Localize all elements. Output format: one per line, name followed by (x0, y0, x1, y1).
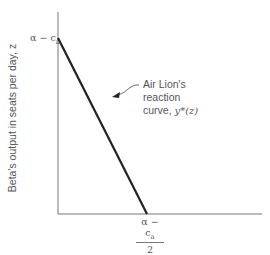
y-tick-label: α − ca (30, 32, 60, 46)
arrow-head-icon (112, 92, 120, 98)
y-axis-label: Beta's output in seats per day, z (6, 44, 18, 192)
reaction-curve-line (58, 38, 147, 214)
x-tick-label: α − ca 2 (136, 216, 164, 255)
annotation-arrow (118, 85, 139, 95)
reaction-curve-annotation: Air Lion's reaction curve, y*(z) (143, 78, 198, 117)
